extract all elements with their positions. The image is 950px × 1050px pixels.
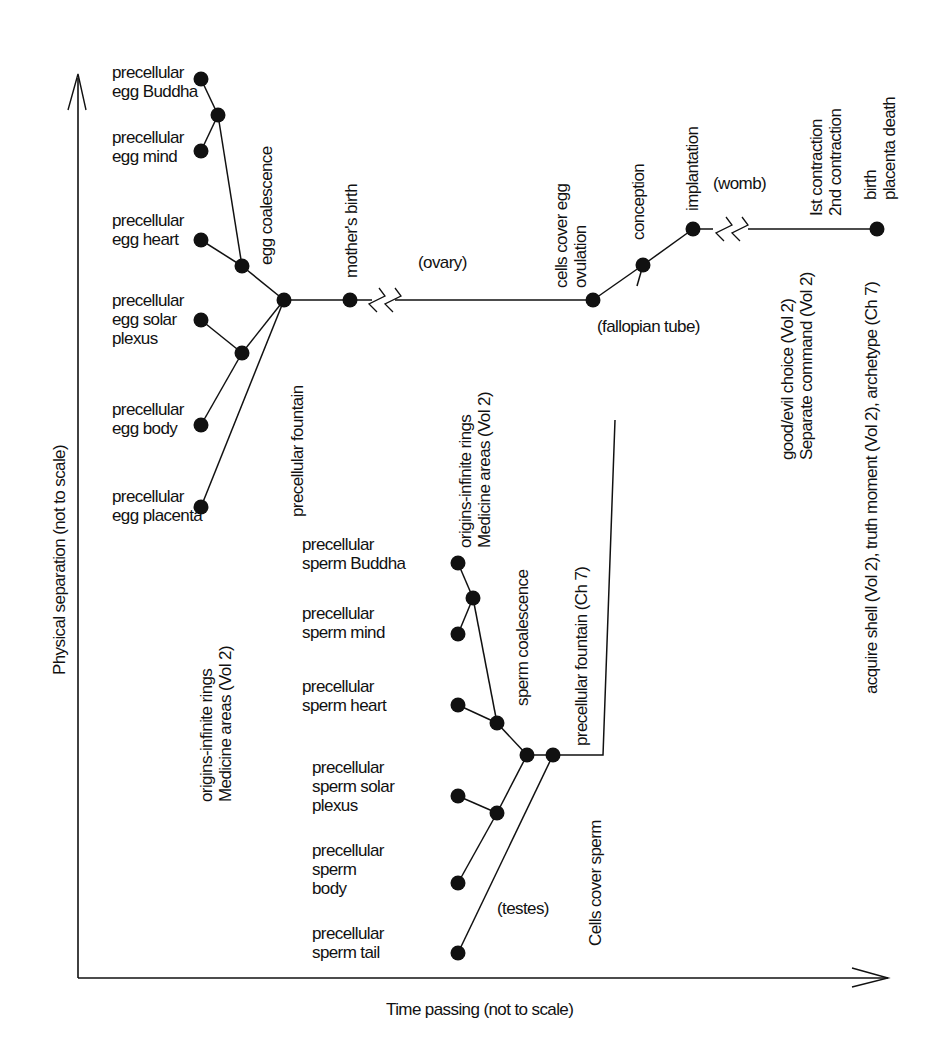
- node-spB: [546, 748, 561, 763]
- node-implant: [686, 222, 701, 237]
- node-ovulation: [586, 293, 601, 308]
- vertical-label: origins-infinite ringsMedicine areas (Vo…: [197, 646, 235, 802]
- vertical-label: origins-infinite ringsMedicine areas (Vo…: [456, 392, 494, 548]
- node-spM2: [490, 806, 505, 821]
- vertical-label: Cells cover sperm: [586, 820, 605, 946]
- womb-break-icon: [716, 217, 732, 241]
- node-eggCoal: [235, 259, 250, 274]
- vertical-label: precellular fountain: [288, 385, 307, 517]
- y-axis-arrow-icon: [68, 74, 86, 110]
- vertical-label: mother's birth: [342, 184, 361, 278]
- vertical-label: conception: [629, 164, 648, 240]
- diagram-canvas: Time passing (not to scale) Physical sep…: [0, 0, 950, 1050]
- node-conception: [636, 258, 651, 273]
- y-axis-label: Physical separation (not to scale): [50, 445, 69, 675]
- vertical-label: good/evil choice (Vol 2)Separate command…: [778, 272, 816, 460]
- edge-line: [458, 755, 553, 953]
- vertical-label: sperm coalescence: [513, 570, 532, 706]
- node-spBuddha: [451, 556, 466, 571]
- edge-line: [201, 320, 242, 353]
- label: (testes): [497, 899, 549, 918]
- node-eggFount: [277, 293, 292, 308]
- edge-line: [593, 265, 643, 300]
- label: precellularsperm tail: [312, 924, 385, 962]
- label: precellularegg body: [112, 400, 185, 438]
- label: precellularegg heart: [112, 211, 185, 249]
- edge-line: [458, 813, 497, 883]
- x-axis-label: Time passing (not to scale): [386, 1000, 573, 1019]
- label: precellularsperm solarplexus: [312, 758, 395, 815]
- edge-line: [473, 598, 497, 723]
- node-eggHeart: [194, 233, 209, 248]
- node-spCoal: [490, 716, 505, 731]
- vertical-label: implantation: [683, 126, 702, 211]
- edge-line: [497, 755, 527, 813]
- horizontal-labels: precellularegg Buddhaprecellularegg mind…: [112, 63, 766, 962]
- label: (fallopian tube): [597, 317, 700, 336]
- label: precellularsperm mind: [302, 604, 385, 642]
- edge-line: [218, 115, 242, 266]
- edge-line: [643, 229, 693, 265]
- label: precellularsperm heart: [302, 677, 387, 715]
- vertical-label: acquire shell (Vol 2), truth moment (Vol…: [862, 282, 881, 694]
- node-eggBody: [194, 418, 209, 433]
- node-eggSolar: [194, 313, 209, 328]
- label: precellularegg mind: [112, 128, 185, 166]
- node-mother: [343, 293, 358, 308]
- node-eggM2: [235, 346, 250, 361]
- vertical-label: Ist contraction2nd contraction: [807, 109, 845, 216]
- label: precellularsperm Buddha: [302, 535, 407, 573]
- edge-line: [201, 353, 242, 425]
- label: (womb): [713, 174, 766, 193]
- node-spM1: [466, 591, 481, 606]
- label: precellularspermbody: [312, 841, 385, 898]
- edge-line: [242, 266, 284, 300]
- label: precellularegg solarplexus: [112, 291, 185, 348]
- node-spHeart: [451, 698, 466, 713]
- edge-line: [242, 300, 284, 353]
- label: precellularegg placenta: [112, 487, 203, 525]
- vertical-label: precellular fountain (Ch 7): [572, 567, 591, 746]
- vertical-labels: egg coalescencemother's birthprecellular…: [197, 97, 899, 946]
- node-eggMind: [194, 144, 209, 159]
- node-birth: [870, 222, 885, 237]
- vertical-label: birthplacenta death: [861, 97, 899, 200]
- node-spA: [520, 748, 535, 763]
- vertical-label: cells cover eggovulation: [552, 183, 590, 288]
- node-eggM1: [211, 108, 226, 123]
- node-spBody: [451, 876, 466, 891]
- vertical-label: egg coalescence: [257, 146, 276, 265]
- life-origin-diagram: Time passing (not to scale) Physical sep…: [0, 0, 950, 1050]
- node-spMind: [451, 627, 466, 642]
- node-spTail: [451, 946, 466, 961]
- node-spSolar: [451, 789, 466, 804]
- label: (ovary): [418, 253, 467, 272]
- label: precellularegg Buddha: [112, 63, 199, 101]
- womb-break-icon: [732, 217, 748, 241]
